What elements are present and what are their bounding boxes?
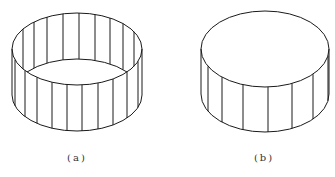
figure-label-b: (b) xyxy=(254,152,274,163)
bottom-front-arc xyxy=(12,95,142,131)
top-face-ellipse xyxy=(201,11,329,87)
inner-back-bottom-arc xyxy=(27,59,127,72)
diagram-canvas xyxy=(0,0,335,177)
bottom-front-arc xyxy=(201,94,329,132)
closed-cylinder-b xyxy=(201,11,329,132)
figure-label-a: (a) xyxy=(67,152,87,163)
open-cylinder-a xyxy=(12,13,142,131)
